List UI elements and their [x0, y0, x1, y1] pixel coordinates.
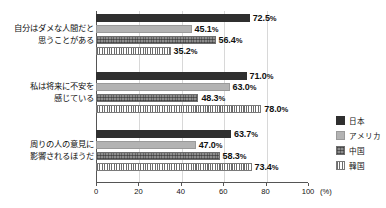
bar-row: 72.5%	[96, 14, 308, 22]
bar-row: 63.7%	[96, 130, 308, 138]
bar-row: 73.4%	[96, 163, 308, 171]
bar-row: 45.1%	[96, 25, 308, 33]
bar-value-number: 45.1	[195, 24, 212, 34]
x-axis-unit-label: (%)	[320, 187, 332, 196]
x-axis-tick	[266, 183, 267, 186]
x-axis-tick	[138, 183, 139, 186]
category-label: 私は将来に不安を感じている	[30, 81, 94, 104]
bar-value-percent-sign: %	[216, 141, 223, 150]
bar-value-number: 56.4	[219, 35, 236, 45]
bar-value-number: 63.7	[234, 129, 251, 139]
bar-value-label: 58.3%	[223, 151, 247, 161]
bar-value-label: 73.4%	[255, 162, 279, 172]
bar-value-percent-sign: %	[267, 72, 274, 81]
x-axis-tick-label: 60	[219, 187, 227, 196]
legend: 日本アメリカ中国韓国	[336, 113, 381, 173]
category-label-line: 影響されるほうだ	[30, 151, 94, 163]
legend-swatch	[336, 131, 345, 140]
bar-value-label: 47.0%	[199, 140, 223, 150]
bar-value-number: 73.4	[255, 162, 272, 172]
bar	[96, 105, 261, 113]
x-axis-tick-label: 20	[134, 187, 142, 196]
bar-value-number: 71.0	[250, 71, 267, 81]
bar	[96, 94, 198, 102]
bar-value-percent-sign: %	[251, 130, 258, 139]
bar-value-number: 72.5	[253, 13, 270, 23]
bar-value-percent-sign: %	[250, 83, 257, 92]
bar-value-label: 63.7%	[234, 129, 258, 139]
bar	[96, 83, 230, 91]
bar-value-label: 35.2%	[174, 46, 198, 56]
legend-label: 日本	[349, 115, 365, 126]
bar	[96, 25, 192, 33]
bar-value-number: 58.3	[223, 151, 240, 161]
legend-swatch	[336, 116, 345, 125]
x-axis-tick-label: 0	[94, 187, 98, 196]
bar	[96, 36, 216, 44]
bar-value-label: 63.0%	[233, 82, 257, 92]
legend-item: アメリカ	[336, 128, 381, 142]
bar-value-percent-sign: %	[281, 105, 288, 114]
bar-chart: 自分はダメな人間だと思うことがある72.5%45.1%56.4%35.2%私は将…	[0, 0, 386, 208]
bar-row: 48.3%	[96, 94, 308, 102]
bar	[96, 14, 250, 22]
category-label-line: 周りの人の意見に	[30, 139, 94, 151]
bar-value-percent-sign: %	[272, 163, 279, 172]
bar-row: 35.2%	[96, 47, 308, 55]
bar	[96, 152, 220, 160]
category-label: 周りの人の意見に影響されるほうだ	[30, 139, 94, 162]
bar-row: 78.0%	[96, 105, 308, 113]
bar-value-number: 78.0	[264, 104, 281, 114]
bar-value-label: 45.1%	[195, 24, 219, 34]
bar-row: 47.0%	[96, 141, 308, 149]
bar-value-percent-sign: %	[219, 94, 226, 103]
bar-value-percent-sign: %	[236, 36, 243, 45]
x-axis-tick	[96, 183, 97, 186]
bar-value-label: 56.4%	[219, 35, 243, 45]
legend-swatch	[336, 161, 345, 170]
x-axis-tick	[308, 183, 309, 186]
bar-value-number: 48.3	[201, 93, 218, 103]
bar-value-label: 72.5%	[253, 13, 277, 23]
x-axis-tick	[223, 183, 224, 186]
category-label-line: 自分はダメな人間だと	[14, 23, 94, 35]
bar-value-number: 63.0	[233, 82, 250, 92]
category-label: 自分はダメな人間だと思うことがある	[14, 23, 94, 46]
bar	[96, 130, 231, 138]
bar-value-label: 48.3%	[201, 93, 225, 103]
x-axis-tick-label: 80	[261, 187, 269, 196]
legend-item: 韓国	[336, 158, 381, 172]
bar-value-number: 47.0	[199, 140, 216, 150]
bar	[96, 72, 247, 80]
bar-row: 71.0%	[96, 72, 308, 80]
bar-value-label: 71.0%	[250, 71, 274, 81]
bar-row: 56.4%	[96, 36, 308, 44]
x-axis-tick	[181, 183, 182, 186]
bar	[96, 141, 196, 149]
bar-value-number: 35.2	[174, 46, 191, 56]
x-axis-tick-label: 40	[177, 187, 185, 196]
category-label-line: 感じている	[30, 93, 94, 105]
bar	[96, 163, 252, 171]
bar-row: 63.0%	[96, 83, 308, 91]
bar-value-percent-sign: %	[240, 152, 247, 161]
legend-label: アメリカ	[349, 130, 381, 141]
bar-value-percent-sign: %	[191, 47, 198, 56]
bar-value-percent-sign: %	[270, 14, 277, 23]
legend-label: 韓国	[349, 160, 365, 171]
category-label-line: 私は将来に不安を	[30, 81, 94, 93]
legend-label: 中国	[349, 145, 365, 156]
bar-row: 58.3%	[96, 152, 308, 160]
x-axis-tick-label: 100	[302, 187, 315, 196]
category-label-line: 思うことがある	[14, 35, 94, 47]
bar-value-label: 78.0%	[264, 104, 288, 114]
bar	[96, 47, 171, 55]
bar-value-percent-sign: %	[212, 25, 219, 34]
legend-item: 日本	[336, 113, 381, 127]
legend-item: 中国	[336, 143, 381, 157]
legend-swatch	[336, 146, 345, 155]
